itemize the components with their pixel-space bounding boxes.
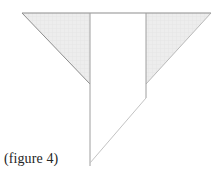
figure-caption: (figure 4) (4, 150, 58, 168)
figure-container: (figure 4) (0, 0, 221, 177)
lower-diagonal-edge (90, 98, 146, 163)
